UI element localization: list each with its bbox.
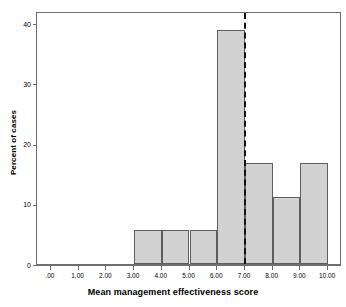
x-tick-mark [272,266,273,270]
x-tick-mark [244,266,245,270]
histogram-figure: Percent of cases 010203040 .001.002.003.… [0,0,346,307]
x-axis-title: Mean management effectiveness score [0,287,346,297]
x-tick-mark [161,266,162,270]
y-tick-label: 20 [9,141,31,148]
x-tick-mark [133,266,134,270]
y-tick-label: 0 [9,262,31,269]
x-tick-mark [105,266,106,270]
y-tick-label: 10 [9,201,31,208]
plot-area [36,12,341,265]
histogram-bar [300,163,328,264]
x-tick-mark [327,266,328,270]
x-tick-label: 6.00 [210,272,223,279]
histogram-bar [134,230,162,264]
x-tick-label: .00 [45,272,54,279]
x-tick-mark [50,266,51,270]
x-tick-mark [189,266,190,270]
histogram-bar [245,163,273,264]
histogram-bar [190,230,218,264]
x-tick-label: 4.00 [154,272,167,279]
x-tick-mark [78,266,79,270]
x-tick-label: 2.00 [99,272,112,279]
x-tick-label: 7.00 [238,272,251,279]
x-tick-label: 10.00 [319,272,335,279]
histogram-bar [217,30,245,264]
x-tick-label: 1.00 [71,272,84,279]
histogram-bar [273,197,301,264]
threshold-line-icon [244,13,246,264]
y-tick-label: 30 [9,81,31,88]
x-tick-mark [299,266,300,270]
x-tick-label: 5.00 [182,272,195,279]
x-tick-label: 3.00 [127,272,140,279]
x-tick-label: 8.00 [265,272,278,279]
x-tick-label: 9.00 [293,272,306,279]
y-tick-label: 40 [9,21,31,28]
histogram-bar [162,230,190,264]
x-tick-mark [216,266,217,270]
